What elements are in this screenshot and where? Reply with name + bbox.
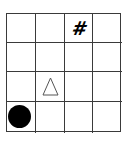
cell-1-3[interactable]	[93, 43, 122, 72]
cell-3-3[interactable]	[93, 102, 122, 133]
cell-2-3[interactable]	[93, 72, 122, 102]
cell-2-0[interactable]	[7, 72, 36, 102]
cell-0-2[interactable]: #	[65, 14, 93, 43]
cell-0-0[interactable]	[7, 14, 36, 43]
cell-1-1[interactable]	[36, 43, 65, 72]
hash-icon: #	[71, 19, 87, 38]
game-board: #	[6, 13, 121, 132]
cell-0-3[interactable]	[93, 14, 122, 43]
triangle-icon	[42, 77, 59, 96]
cell-3-0[interactable]	[7, 102, 36, 133]
cell-1-0[interactable]	[7, 43, 36, 72]
cell-2-2[interactable]	[65, 72, 93, 102]
cell-2-1[interactable]	[36, 72, 65, 102]
cell-1-2[interactable]	[65, 43, 93, 72]
filled-circle-icon	[8, 105, 31, 128]
cell-3-1[interactable]	[36, 102, 65, 133]
cell-3-2[interactable]	[65, 102, 93, 133]
cell-0-1[interactable]	[36, 14, 65, 43]
